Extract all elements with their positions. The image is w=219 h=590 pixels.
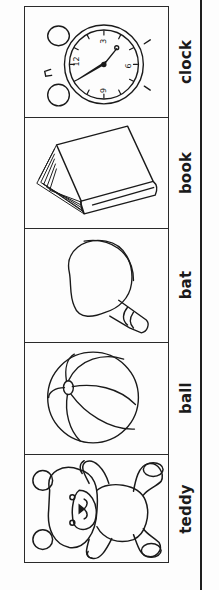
word-label-clock: clock [172,6,200,117]
teddy-bear-icon [25,455,168,564]
svg-text:3: 3 [99,39,108,44]
word-label-bat: bat [172,228,200,342]
svg-text:12: 12 [72,56,81,66]
svg-text:6: 6 [124,63,133,68]
alarm-clock-icon: 12 3 6 9 [25,7,168,117]
worksheet: 12 3 6 9 [0,0,219,590]
picture-cell-ball [25,343,168,455]
picture-cell-teddy [25,455,168,564]
picture-cell-book [25,118,168,229]
svg-text:9: 9 [99,88,108,93]
word-label-book: book [172,117,200,228]
picture-grid: 12 3 6 9 [24,6,169,563]
picture-cell-clock: 12 3 6 9 [25,7,168,118]
picture-cell-bat [25,229,168,343]
word-label-ball: ball [172,342,200,454]
book-icon [25,118,168,228]
beach-ball-icon [25,343,168,454]
vertical-rule-divider [200,0,202,590]
word-label-teddy: teddy [172,454,200,563]
table-tennis-bat-icon [25,229,168,342]
